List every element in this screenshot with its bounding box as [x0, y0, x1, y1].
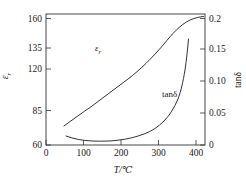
left-tick-label-120: 120: [14, 64, 42, 74]
left-tick-label-135: 135: [14, 43, 42, 53]
right-tick-label-0-10: 0.10: [209, 76, 226, 86]
chart-figure: 160 135 120 85 60 εr 0.2 0.15 0.10 0.05 …: [0, 0, 246, 187]
series-epsilon-r-line: [64, 17, 204, 127]
right-tick-label-0-15: 0.15: [209, 44, 226, 54]
right-axis-ticks: [200, 19, 205, 146]
x-axis-title: T/℃: [98, 165, 148, 175]
right-tick-label-0: 0: [209, 140, 214, 150]
left-axis-title-base: ε: [0, 75, 10, 79]
left-tick-label-160: 160: [14, 14, 42, 24]
curve-label-tan-delta: tanδ: [162, 89, 177, 99]
left-axis-title-sub: r: [5, 73, 13, 76]
right-tick-label-0-05: 0.05: [209, 108, 226, 118]
x-tick-label-400: 400: [184, 148, 209, 158]
x-tick-label-0: 0: [36, 148, 56, 158]
plot-frame: [46, 14, 205, 145]
curve-label-epsilon-r: εr: [95, 43, 101, 57]
right-tick-label-0-2: 0.2: [209, 14, 221, 24]
left-axis-ticks: [46, 19, 51, 146]
left-tick-label-85: 85: [14, 106, 42, 116]
right-axis-title: tanδ: [233, 63, 243, 97]
x-tick-label-100: 100: [71, 148, 96, 158]
x-axis-ticks: [46, 140, 196, 145]
curve-label-epsilon-sub: r: [99, 48, 102, 56]
x-tick-label-300: 300: [146, 148, 171, 158]
left-axis-title: εr: [0, 62, 14, 90]
plot-area-svg: [0, 0, 246, 187]
x-tick-label-200: 200: [109, 148, 134, 158]
